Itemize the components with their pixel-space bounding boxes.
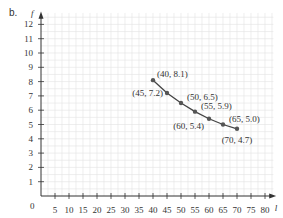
svg-text:(65, 5.0): (65, 5.0) (229, 114, 260, 124)
grid (41, 13, 273, 196)
svg-text:2: 2 (29, 162, 34, 172)
svg-text:5: 5 (29, 120, 34, 130)
svg-text:20: 20 (93, 205, 103, 215)
svg-text:(60, 5.4): (60, 5.4) (173, 121, 204, 131)
svg-text:12: 12 (24, 19, 33, 29)
svg-text:50: 50 (177, 205, 187, 215)
svg-text:10: 10 (65, 205, 75, 215)
svg-text:35: 35 (135, 205, 145, 215)
svg-text:15: 15 (79, 205, 89, 215)
svg-text:5: 5 (53, 205, 58, 215)
svg-text:1: 1 (29, 177, 34, 187)
svg-text:75: 75 (247, 205, 257, 215)
svg-text:45: 45 (163, 205, 173, 215)
svg-text:f: f (31, 8, 35, 18)
svg-text:0: 0 (30, 201, 35, 211)
line-chart: 5101520253035404550556065707580123456789… (0, 0, 283, 218)
svg-text:55: 55 (191, 205, 201, 215)
svg-text:(55, 5.9): (55, 5.9) (201, 101, 232, 111)
svg-text:4: 4 (29, 134, 34, 144)
svg-text:6: 6 (29, 105, 34, 115)
svg-text:40: 40 (149, 205, 159, 215)
svg-text:9: 9 (29, 62, 34, 72)
svg-text:3: 3 (29, 148, 34, 158)
svg-text:7: 7 (29, 91, 34, 101)
svg-text:30: 30 (121, 205, 131, 215)
svg-text:10: 10 (24, 48, 34, 58)
svg-text:11: 11 (24, 34, 33, 44)
svg-text:80: 80 (261, 205, 271, 215)
svg-text:(40, 8.1): (40, 8.1) (157, 69, 188, 79)
svg-text:l: l (275, 203, 278, 213)
svg-text:8: 8 (29, 77, 34, 87)
svg-text:25: 25 (107, 205, 117, 215)
svg-text:60: 60 (205, 205, 215, 215)
svg-text:(70, 4.7): (70, 4.7) (222, 135, 253, 145)
axes (39, 12, 277, 199)
svg-text:(45, 7.2): (45, 7.2) (132, 88, 163, 98)
svg-text:65: 65 (219, 205, 229, 215)
svg-text:70: 70 (233, 205, 243, 215)
